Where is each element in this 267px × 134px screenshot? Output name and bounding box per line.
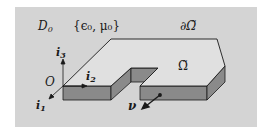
- domain-label: D0: [38, 20, 53, 34]
- axis-i2-label: i2: [86, 71, 96, 83]
- origin-label: O: [45, 76, 55, 88]
- front-face-left: [63, 86, 111, 100]
- axis-i3-label: i3: [56, 47, 66, 59]
- diagram-figure: D0 {ϵ₀, μ₀} ∂Ω̃ Ω̃ O i3 i2 i1 ν: [0, 0, 267, 134]
- params-label: {ϵ₀, μ₀}: [73, 20, 120, 32]
- boundary-label: ∂Ω̃: [180, 20, 196, 32]
- normal-label: ν: [128, 100, 136, 112]
- region-label: Ω̃: [178, 60, 188, 72]
- front-face-right: [140, 86, 207, 100]
- axis-i1-label: i1: [36, 100, 46, 112]
